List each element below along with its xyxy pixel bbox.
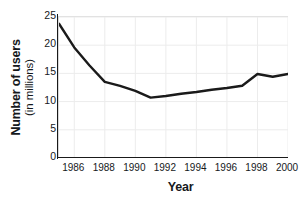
x-tick-label: 2000 (272, 162, 302, 173)
x-axis-tick-labels: 19861988199019921994199619982000 (0, 162, 304, 178)
x-axis-title: Year (57, 180, 304, 194)
y-tick-label: 5 (34, 122, 56, 134)
y-tick-label: 0 (34, 150, 56, 162)
y-axis-title-line1: Number of users (9, 17, 23, 157)
y-axis-line (57, 14, 58, 159)
y-tick-label: 25 (34, 9, 56, 21)
gridlines (59, 17, 288, 158)
x-tick-label: 1986 (58, 162, 88, 173)
x-tick-label: 1996 (211, 162, 241, 173)
plot-area (58, 16, 288, 158)
x-tick-label: 1994 (180, 162, 210, 173)
y-axis-title: Number of users (in millions) (9, 17, 36, 157)
x-tick-label: 1988 (89, 162, 119, 173)
y-tick-label: 10 (34, 94, 56, 106)
x-axis-line (57, 157, 288, 158)
y-tick-label: 15 (34, 65, 56, 77)
y-tick-label: 20 (34, 37, 56, 49)
line-chart: Number of users (in millions) 0510152025… (0, 0, 304, 199)
data-series-line (59, 24, 288, 98)
x-tick-label: 1990 (119, 162, 149, 173)
x-tick-label: 1998 (241, 162, 271, 173)
plot-svg (59, 17, 288, 158)
x-tick-label: 1992 (150, 162, 180, 173)
